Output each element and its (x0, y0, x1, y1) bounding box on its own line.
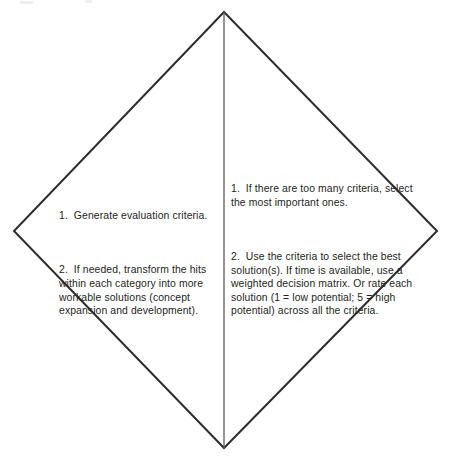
list-item: 1. Generate evaluation criteria. (59, 209, 211, 223)
list-item: 2. If needed, transform the hits within … (59, 263, 211, 317)
list-item: 1. If there are too many criteria, selec… (231, 182, 421, 209)
right-panel-text: 1. If there are too many criteria, selec… (231, 155, 421, 345)
list-item: 2. Use the criteria to select the best s… (231, 250, 421, 318)
diagram-canvas: 1. Generate evaluation criteria. 2. If n… (0, 0, 449, 460)
left-panel-text: 1. Generate evaluation criteria. 2. If n… (59, 182, 211, 345)
